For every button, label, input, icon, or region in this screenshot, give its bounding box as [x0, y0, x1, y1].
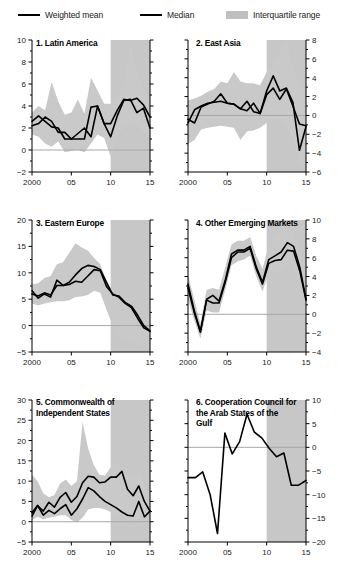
- panel-title-4: 4. Other Emerging Markets: [196, 218, 298, 229]
- x-tick-label: 05: [223, 178, 232, 187]
- band-marker-icon: [226, 11, 248, 19]
- legend-item-interquartile-range: Interquartile range: [226, 10, 320, 20]
- y-tick-label: 10: [312, 216, 321, 225]
- legend-item-weighted-mean: Weighted mean: [18, 10, 103, 20]
- line-marker-icon: [18, 14, 40, 16]
- plot-area-2: −6−4−2024682000051015: [172, 34, 338, 192]
- y-tick-label: −15: [312, 514, 326, 523]
- y-tick-label: 8: [312, 36, 317, 45]
- plot-area-4: −4−202468102000051015: [172, 214, 338, 372]
- x-tick-label: 2000: [23, 358, 41, 367]
- panel-commonwealth-independent-states: 5. Commonwealth of Independent States −5…: [0, 394, 172, 564]
- y-tick-label: −6: [312, 168, 322, 177]
- y-tick-label: 4: [312, 74, 317, 83]
- legend-item-median: Median: [140, 10, 194, 20]
- y-tick-label: 5: [22, 295, 27, 304]
- x-tick-label: 2000: [179, 548, 197, 557]
- y-tick-label: 2: [312, 291, 317, 300]
- y-tick-label: 10: [312, 396, 321, 405]
- x-tick-label: 15: [146, 358, 155, 367]
- y-tick-label: 0: [312, 443, 317, 452]
- panel-title-6: 6. Cooperation Council for the Arab Stat…: [196, 397, 296, 429]
- y-tick-label: 6: [312, 254, 317, 263]
- y-tick-label: 6: [312, 55, 317, 64]
- panel-other-emerging-markets: 4. Other Emerging Markets −4−20246810200…: [172, 214, 338, 372]
- y-tick-label: 5: [22, 497, 27, 506]
- y-tick-label: −10: [312, 491, 326, 500]
- y-tick-label: 4: [312, 273, 317, 282]
- x-tick-label: 05: [67, 178, 76, 187]
- y-tick-label: 0: [22, 146, 27, 155]
- y-tick-label: 2: [22, 124, 27, 133]
- plot-area-3: −5051015202000051015: [0, 214, 172, 372]
- y-tick-label: 5: [312, 420, 317, 429]
- panel-cooperation-council-arab-states-gulf: 6. Cooperation Council for the Arab Stat…: [172, 394, 338, 564]
- y-tick-label: 8: [312, 235, 317, 244]
- y-tick-label: 15: [17, 242, 26, 251]
- y-tick-label: 10: [17, 477, 26, 486]
- x-tick-label: 15: [302, 178, 311, 187]
- y-tick-label: −2: [17, 168, 27, 177]
- x-tick-label: 15: [146, 548, 155, 557]
- y-tick-label: 25: [17, 416, 26, 425]
- y-tick-label: 15: [17, 457, 26, 466]
- x-tick-label: 10: [106, 358, 115, 367]
- x-tick-label: 15: [146, 178, 155, 187]
- y-tick-label: −5: [17, 348, 27, 357]
- panel-title-3: 3. Eastern Europe: [36, 218, 104, 229]
- x-tick-label: 10: [262, 548, 271, 557]
- x-tick-label: 15: [302, 548, 311, 557]
- line-marker-icon: [140, 14, 162, 16]
- x-tick-label: 2000: [179, 358, 197, 367]
- panel-title-2: 2. East Asia: [196, 38, 240, 49]
- plot-area-1: −202468102000051015: [0, 34, 172, 192]
- y-tick-label: 10: [17, 269, 26, 278]
- x-tick-label: 10: [262, 178, 271, 187]
- legend-label-median: Median: [167, 10, 194, 20]
- panel-title-1: 1. Latin America: [36, 38, 97, 49]
- legend-label-weighted-mean: Weighted mean: [45, 10, 103, 20]
- y-tick-label: 30: [17, 396, 26, 405]
- x-tick-label: 10: [106, 548, 115, 557]
- chart-legend: Weighted mean Median Interquartile range: [0, 0, 338, 30]
- y-tick-label: 0: [312, 310, 317, 319]
- y-tick-label: −20: [312, 538, 326, 547]
- x-tick-label: 2000: [179, 178, 197, 187]
- y-tick-label: 0: [22, 518, 27, 527]
- panel-east-asia: 2. East Asia −6−4−2024682000051015: [172, 34, 338, 192]
- plot-area-5: −50510152025302000051015: [0, 394, 172, 564]
- y-tick-label: 0: [22, 322, 27, 331]
- y-tick-label: 0: [312, 111, 317, 120]
- y-tick-label: 6: [22, 80, 27, 89]
- y-tick-label: 2: [312, 93, 317, 102]
- y-tick-label: −5: [17, 538, 27, 547]
- x-tick-label: 05: [223, 358, 232, 367]
- y-tick-label: −4: [312, 348, 322, 357]
- y-tick-label: 10: [17, 36, 26, 45]
- figure-root: Weighted mean Median Interquartile range…: [0, 0, 338, 585]
- x-tick-label: 10: [262, 358, 271, 367]
- panel-latin-america: 1. Latin America −202468102000051015: [0, 34, 172, 192]
- x-tick-label: 15: [302, 358, 311, 367]
- panel-title-5: 5. Commonwealth of Independent States: [36, 397, 114, 418]
- x-tick-label: 2000: [23, 178, 41, 187]
- x-tick-label: 05: [67, 548, 76, 557]
- y-tick-label: 4: [22, 102, 27, 111]
- legend-label-interquartile-range: Interquartile range: [253, 10, 320, 20]
- x-tick-label: 05: [223, 548, 232, 557]
- x-tick-label: 10: [106, 178, 115, 187]
- y-tick-label: −2: [312, 329, 322, 338]
- x-tick-label: 2000: [23, 548, 41, 557]
- x-tick-label: 05: [67, 358, 76, 367]
- y-tick-label: 20: [17, 437, 26, 446]
- y-tick-label: 8: [22, 58, 27, 67]
- y-tick-label: −5: [312, 467, 322, 476]
- y-tick-label: 20: [17, 216, 26, 225]
- panel-eastern-europe: 3. Eastern Europe −5051015202000051015: [0, 214, 172, 372]
- y-tick-label: −2: [312, 130, 322, 139]
- y-tick-label: −4: [312, 149, 322, 158]
